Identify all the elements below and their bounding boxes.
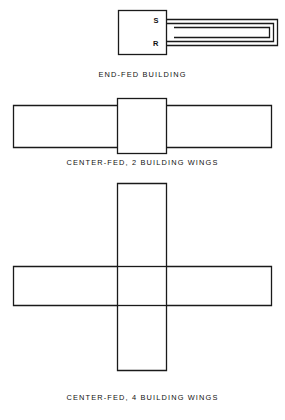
core-box-outline (118, 267, 167, 306)
loop-conductor-core (174, 28, 270, 38)
left-wing-outline (14, 267, 118, 306)
figure-center-fed-4-wings (0, 180, 285, 375)
caption-end-fed-building: END-FED BUILDING (0, 70, 285, 79)
figure-end-fed-building: S R (0, 0, 285, 60)
end-fed-building-drawing: S R (0, 0, 285, 62)
caption-center-fed-4-wings: CENTER-FED, 4 BUILDING WINGS (0, 393, 285, 402)
loop-conductor-inner (167, 24, 274, 42)
return-terminal-label: R (153, 39, 159, 48)
right-wing-outline (167, 267, 272, 306)
caption-center-fed-2-wings: CENTER-FED, 2 BUILDING WINGS (0, 158, 285, 167)
center-fed-4-wings-drawing (0, 180, 285, 376)
send-terminal-label: S (153, 16, 159, 25)
left-wing-outline (14, 106, 118, 148)
core-box-outline (118, 99, 167, 154)
right-wing-outline (167, 106, 272, 148)
bottom-wing-outline (118, 306, 167, 371)
diagram-page: S R END-FED BUILDING CENTER-FED, 2 BUILD… (0, 0, 285, 420)
figure-center-fed-2-wings (0, 95, 285, 155)
building-outline (119, 11, 167, 55)
center-fed-2-wings-drawing (0, 95, 285, 157)
